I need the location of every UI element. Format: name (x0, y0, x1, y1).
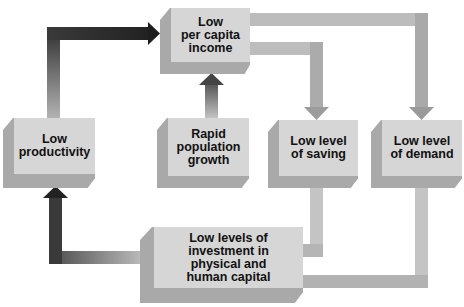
node-label-line: Rapid (177, 128, 241, 141)
box-face: Low productivity (14, 118, 95, 174)
node-low-per-capita-income: Low per capita income (160, 8, 250, 74)
node-low-productivity: Low productivity (3, 118, 95, 188)
arrow-income-to-demand (248, 13, 434, 120)
box-face: Low levels of investment in physical and… (154, 227, 303, 288)
node-label-line: Low levels of (186, 232, 270, 245)
node-label-line: per capita (181, 29, 240, 42)
node-label-line: human capital (186, 271, 270, 284)
node-label-line: investment in (186, 245, 270, 258)
node-low-level-of-demand: Low level of demand (371, 120, 462, 188)
box-face: Low level of saving (279, 120, 358, 176)
node-rapid-population-growth: Rapid population growth (157, 118, 249, 188)
box-face: Low per capita income (171, 8, 250, 62)
box-face: Rapid population growth (168, 118, 249, 176)
node-label-line: Low (181, 16, 240, 29)
node-label-line: of saving (290, 148, 346, 161)
arrow-income-to-saving (248, 42, 329, 120)
box-face: Low level of demand (382, 120, 462, 176)
node-low-level-of-saving: Low level of saving (268, 120, 358, 188)
node-label-line: physical and (186, 258, 270, 271)
arrow-productivity-to-income (47, 22, 160, 120)
arrow-investment-to-productivity (43, 186, 144, 264)
node-label-line: of demand (390, 148, 453, 161)
node-label-line: growth (177, 154, 241, 167)
arrow-population-to-income (199, 73, 224, 120)
node-label-line: population (177, 141, 241, 154)
node-label-line: income (181, 42, 240, 55)
node-low-levels-of-investment: Low levels of investment in physical and… (140, 227, 303, 303)
node-label-line: productivity (19, 146, 91, 159)
